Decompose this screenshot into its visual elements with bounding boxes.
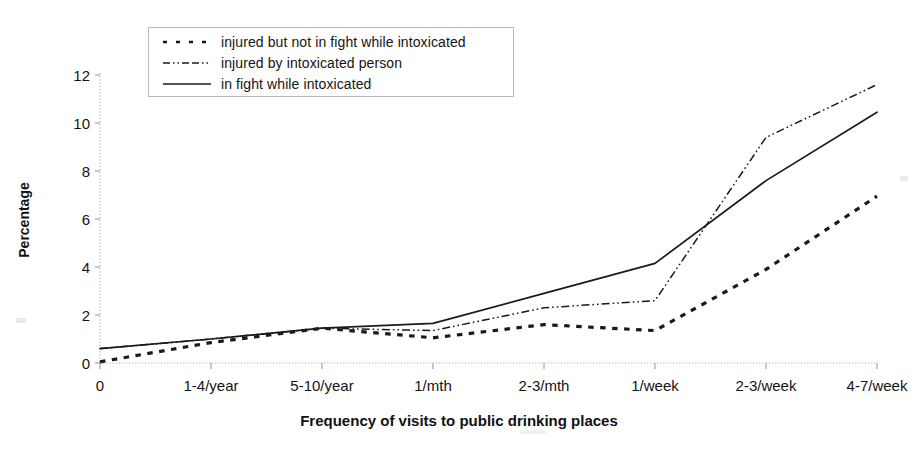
y-tick-label: 2 [56,307,90,324]
series-line-dotted [100,196,877,362]
legend-label-1: injured by intoxicated person [221,55,402,71]
y-tick-label: 4 [56,259,90,276]
y-tick-label: 12 [56,67,90,84]
line-chart-figure: Percentage Frequency of visits to public… [0,0,918,449]
y-tick-label: 0 [56,355,90,372]
legend-line-sample-dash-dot [161,57,213,69]
x-tick-label: 1/week [631,377,679,394]
legend-line-sample-dotted [161,36,213,48]
legend-item-1: injured by intoxicated person [161,53,402,73]
axes-layer [95,73,877,369]
legend-item-2: in fight while intoxicated [161,74,371,94]
x-axis-title: Frequency of visits to public drinking p… [0,412,918,429]
x-tick-label: 2-3/mth [519,377,570,394]
y-tick-label: 10 [56,115,90,132]
x-tick-label: 0 [96,377,104,394]
series-layer [100,85,877,362]
x-tick-label: 1-4/year [183,377,238,394]
x-tick-label: 1/mth [414,377,452,394]
x-tick-label: 5-10/year [290,377,353,394]
legend-item-0: injured but not in fight while intoxicat… [161,32,466,52]
chart-legend: injured but not in fight while intoxicat… [148,27,514,97]
x-tick-label: 2-3/week [736,377,797,394]
series-line-solid [100,112,877,348]
legend-label-2: in fight while intoxicated [221,76,371,92]
y-axis-title: Percentage [16,182,32,257]
y-tick-label: 8 [56,163,90,180]
legend-label-0: injured but not in fight while intoxicat… [221,34,466,50]
legend-line-sample-solid [161,78,213,90]
x-tick-label: 4-7/week [847,377,908,394]
y-tick-label: 6 [56,211,90,228]
